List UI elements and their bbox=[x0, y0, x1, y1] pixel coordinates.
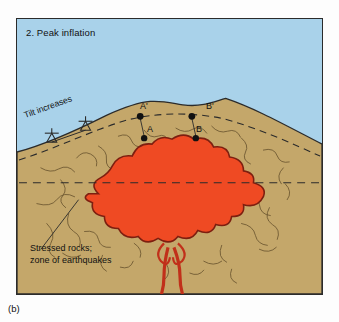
point-b-prime-marker bbox=[188, 113, 195, 120]
label-a: A bbox=[147, 124, 153, 134]
point-a-prime-marker bbox=[137, 113, 144, 120]
point-a-marker bbox=[141, 135, 147, 141]
stressed-rocks-line-1: Stressed rocks; bbox=[30, 243, 112, 255]
figure-caption: (b) bbox=[8, 303, 20, 314]
label-b: B bbox=[196, 124, 202, 134]
stressed-rocks-label: Stressed rocks; zone of earthquakes bbox=[30, 243, 112, 266]
label-a-prime: A' bbox=[140, 101, 148, 111]
label-b-prime: B' bbox=[206, 101, 214, 111]
page-title: 2. Peak inflation bbox=[26, 27, 95, 38]
point-b-marker bbox=[193, 135, 199, 141]
stressed-rocks-line-2: zone of earthquakes bbox=[30, 255, 112, 267]
figure-container: 2. Peak inflation A' B' A B Tilt increas… bbox=[0, 0, 339, 322]
